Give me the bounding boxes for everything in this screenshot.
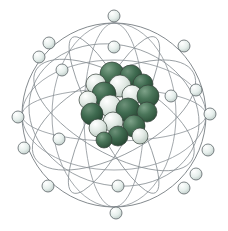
electron-upper-left-3	[56, 64, 68, 76]
electron-lower-right-1	[190, 168, 202, 180]
nucleon-proton	[96, 132, 112, 148]
atom-diagram: Atom model	[0, 0, 228, 231]
electron-left-edge	[12, 111, 24, 123]
electron-upper-left-2	[33, 51, 45, 63]
electron-right-low	[202, 144, 214, 156]
electron-lower-right-2	[178, 182, 190, 194]
electron-upper-mid	[108, 41, 120, 53]
nucleon-neutron	[132, 128, 148, 144]
electron-bottom-inner	[112, 180, 124, 192]
electron-right-upper	[165, 90, 177, 102]
electron-upper-right-1	[178, 40, 190, 52]
electron-top	[108, 10, 120, 22]
electron-left-mid	[18, 142, 30, 154]
atom-illustration	[0, 0, 228, 231]
electron-lower-left-1	[42, 180, 54, 192]
electron-left-inner	[53, 133, 65, 145]
electron-right-mid	[190, 84, 202, 96]
electron-right-edge	[204, 108, 216, 120]
electron-upper-left-1	[43, 37, 55, 49]
electron-bottom	[110, 207, 122, 219]
